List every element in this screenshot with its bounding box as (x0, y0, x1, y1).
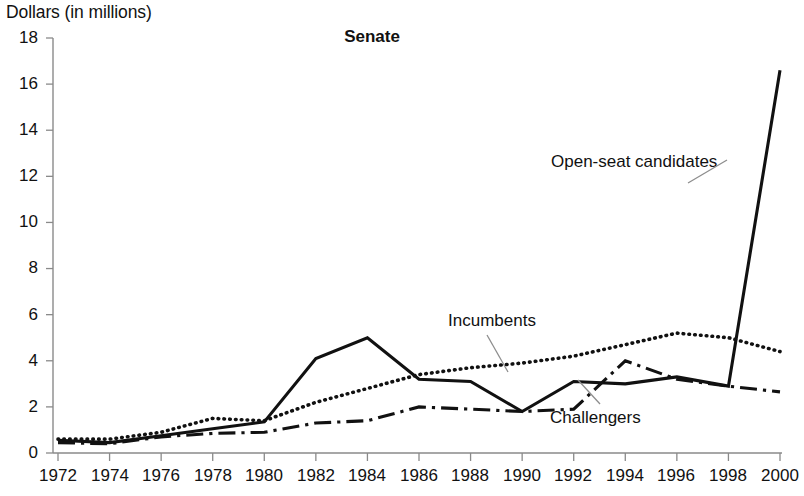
x-tick-marks (58, 453, 780, 461)
series-line-open-seat-candidates (58, 70, 780, 442)
leader-lines (487, 160, 727, 404)
axes-group (46, 38, 782, 461)
plot-area (0, 0, 804, 496)
series-line-incumbents (58, 333, 780, 439)
series-group (58, 70, 780, 444)
chart-canvas: Dollars (in millions) Senate 18 16 14 12… (0, 0, 804, 496)
y-tick-marks (46, 38, 53, 453)
leader-line-open-seat (688, 160, 727, 183)
